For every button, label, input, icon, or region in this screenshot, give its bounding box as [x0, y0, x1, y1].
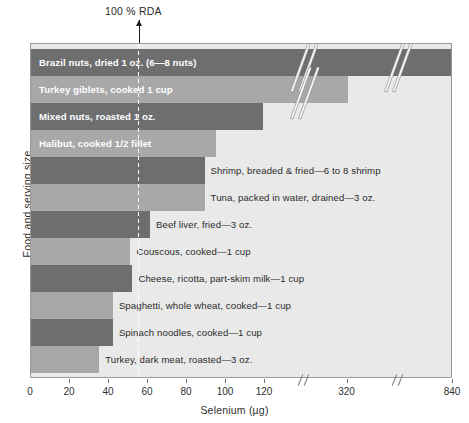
x-axis-tick-label: 60 — [141, 386, 152, 397]
bar-category-label: Cheese, ricotta, part-skim milk—1 cup — [138, 265, 304, 292]
bar — [31, 346, 99, 373]
x-axis-tick — [264, 379, 265, 383]
bar-category-label: Turkey, dark meat, roasted—3 oz. — [105, 346, 252, 373]
x-axis-tick-label: 0 — [27, 386, 33, 397]
x-axis-tick-label: 840 — [444, 386, 461, 397]
axis-break-mark-icon — [297, 374, 313, 386]
x-axis-tick — [147, 379, 148, 383]
x-axis-tick-label: 40 — [102, 386, 113, 397]
bar — [31, 319, 113, 346]
x-axis-tick-label: 320 — [338, 386, 355, 397]
bar-category-label: Brazil nuts, dried 1 oz. (6—8 nuts) — [39, 49, 197, 76]
bar — [31, 157, 205, 184]
x-axis-title: Selenium (µg) — [0, 404, 469, 416]
x-axis-tick — [225, 379, 226, 383]
bar-category-label: Turkey giblets, cooked 1 cup — [39, 76, 173, 103]
x-axis-tick-label: 100 — [217, 386, 234, 397]
axis-break-mark-icon — [391, 374, 407, 386]
selenium-bar-chart: 100 % RDA Food and serving size Brazil n… — [0, 0, 469, 423]
bar — [31, 292, 113, 319]
rda-guide-line — [138, 44, 139, 377]
x-axis-tick — [69, 379, 70, 383]
x-axis-tick — [347, 379, 348, 383]
rda-annotation-arrow-icon — [139, 20, 140, 44]
bar-category-label: Spinach noodles, cooked—1 cup — [119, 319, 262, 346]
x-axis-tick-label: 80 — [180, 386, 191, 397]
bar-category-label: Spaghetti, whole wheat, cooked—1 cup — [119, 292, 291, 319]
bar-category-label: Beef liver, fried—3 oz. — [156, 211, 252, 238]
bar-category-label: Halibut, cooked 1/2 fillet — [39, 130, 151, 157]
bar — [31, 238, 130, 265]
plot-area: Brazil nuts, dried 1 oz. (6—8 nuts)Turke… — [30, 43, 452, 378]
bar-category-label: Tuna, packed in water, drained—3 oz. — [211, 184, 376, 211]
bar — [31, 265, 132, 292]
bar — [31, 211, 150, 238]
bar-category-label: Couscous, cooked—1 cup — [136, 238, 250, 265]
x-axis-tick-label: 20 — [63, 386, 74, 397]
x-axis-tick — [186, 379, 187, 383]
x-axis-tick-label: 120 — [256, 386, 273, 397]
x-axis-tick — [452, 379, 453, 383]
bar-category-label: Shrimp, breaded & fried—6 to 8 shrimp — [211, 157, 381, 184]
rda-annotation-label: 100 % RDA — [105, 5, 162, 17]
x-axis-tick — [108, 379, 109, 383]
bar — [31, 184, 205, 211]
